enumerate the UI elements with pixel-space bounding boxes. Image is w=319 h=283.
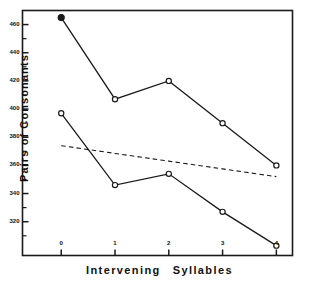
x-axis-title: InterveningSyllables bbox=[0, 264, 319, 276]
upper-series-point bbox=[58, 15, 64, 21]
x-tick-label: 0 bbox=[49, 240, 73, 246]
upper-series-point bbox=[166, 78, 171, 83]
figure-line-chart: 460440420400380360340320 01234 Pairs of … bbox=[0, 0, 319, 283]
lower-series-point bbox=[166, 171, 171, 176]
upper-series-point bbox=[274, 163, 279, 168]
lower-series-line bbox=[61, 113, 276, 245]
upper-series-markers bbox=[58, 15, 279, 168]
y-tick-label: 340 bbox=[0, 190, 20, 196]
y-tick-label: 420 bbox=[0, 77, 20, 83]
x-tick-label: 4 bbox=[264, 240, 288, 246]
y-axis-title: Pairs of Consonants bbox=[18, 28, 30, 208]
plot-frame bbox=[23, 11, 293, 256]
lower-series-point bbox=[59, 111, 64, 116]
y-tick-label: 360 bbox=[0, 161, 20, 167]
y-tick-label: 440 bbox=[0, 49, 20, 55]
x-tick-label: 2 bbox=[157, 240, 181, 246]
lower-series-markers bbox=[59, 111, 279, 249]
x-tick-label: 3 bbox=[211, 240, 235, 246]
lower-series-point bbox=[112, 183, 117, 188]
y-tick-label: 400 bbox=[0, 105, 20, 111]
upper-series-point bbox=[112, 97, 117, 102]
x-axis-title-part-1: Intervening bbox=[86, 264, 161, 276]
x-axis-title-part-2: Syllables bbox=[173, 264, 233, 276]
y-tick-label: 380 bbox=[0, 133, 20, 139]
upper-series-point bbox=[220, 121, 225, 126]
x-tick-label: 1 bbox=[103, 240, 127, 246]
y-tick-label: 460 bbox=[0, 21, 20, 27]
x-axis-ticks bbox=[61, 250, 276, 256]
lower-series-point bbox=[220, 209, 225, 214]
upper-series-line bbox=[61, 18, 276, 166]
y-tick-label: 320 bbox=[0, 218, 20, 224]
